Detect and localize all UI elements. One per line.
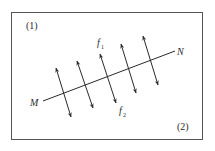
region-2-label: (2) (177, 121, 189, 133)
force-label-f2-sub: 2 (123, 112, 126, 118)
line-end-label-n: N (176, 46, 185, 57)
force-label-f1-sub: 1 (101, 44, 104, 50)
region-1-label: (1) (26, 20, 38, 32)
physics-diagram: (1) (2) M N f 1 f 2 (0, 0, 215, 151)
line-start-label-m: M (29, 97, 39, 108)
